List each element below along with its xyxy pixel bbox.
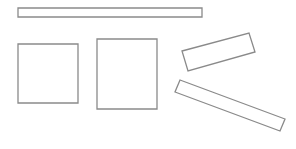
diagram-canvas	[0, 0, 296, 149]
square-left	[18, 44, 78, 103]
tilted-rectangle-upper	[182, 33, 255, 71]
tilted-rectangle-lower	[175, 80, 285, 131]
horizontal-bar	[18, 8, 202, 17]
rectangle-middle	[97, 39, 157, 109]
